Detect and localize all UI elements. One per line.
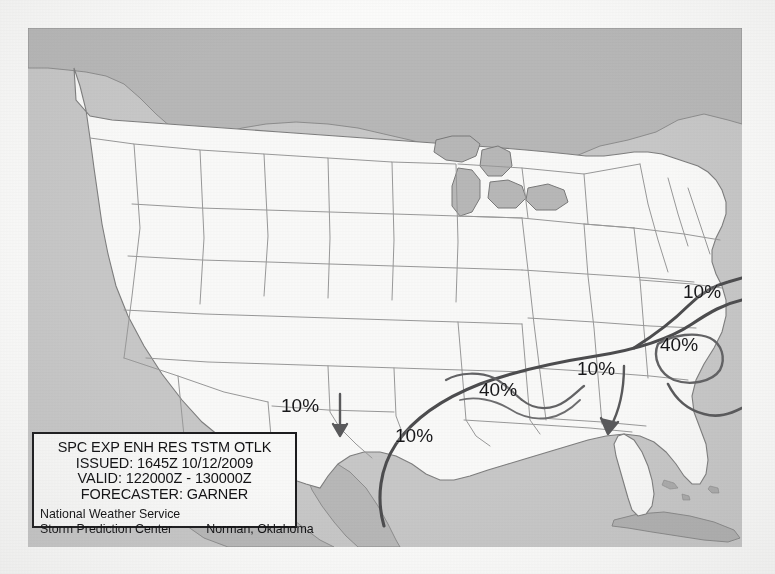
legend-issued: ISSUED: 1645Z 10/12/2009 [40, 456, 289, 472]
legend-agency: National Weather Service [40, 507, 289, 521]
probability-label-40pct: 40% [479, 379, 517, 401]
probability-label-10pct: 10% [395, 425, 433, 447]
legend-center: Storm Prediction Center [40, 522, 172, 536]
probability-label-10pct: 10% [577, 358, 615, 380]
legend-title: SPC EXP ENH RES TSTM OTLK [40, 440, 289, 456]
probability-label-10pct: 10% [281, 395, 319, 417]
legend-location: Norman, Oklahoma [206, 522, 313, 536]
probability-label-40pct: 40% [660, 334, 698, 356]
legend-forecaster: FORECASTER: GARNER [40, 487, 289, 503]
probability-label-10pct: 10% [683, 281, 721, 303]
scanned-page: possible, the parameter space will sup-a… [0, 0, 775, 574]
legend-box: SPC EXP ENH RES TSTM OTLK ISSUED: 1645Z … [32, 432, 297, 528]
legend-valid: VALID: 122000Z - 130000Z [40, 471, 289, 487]
